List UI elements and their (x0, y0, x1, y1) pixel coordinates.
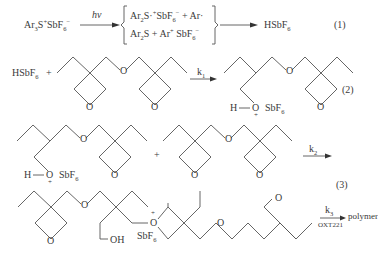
eq2-reactant: HSbF6 (12, 68, 39, 78)
atom-o: O (217, 218, 224, 228)
atom-o: O (120, 66, 127, 76)
eq3-oxonium-o: O (150, 218, 157, 228)
atom-o: O (286, 66, 293, 76)
eq3-plus: + (154, 150, 160, 160)
atom-o: O (111, 170, 118, 180)
eq2-h: H (230, 103, 237, 113)
atom-o: O (317, 102, 324, 112)
eq3-counterion: SbF6 (137, 231, 156, 241)
atom-o: O (225, 134, 232, 144)
eq1-number: (1) (334, 20, 346, 30)
eq3-o-charge: + (48, 179, 52, 186)
eq3-number: (3) (336, 180, 348, 190)
eq3-final-arrow-label: k3 (325, 205, 333, 215)
atom-o: O (86, 102, 93, 112)
eq2-plus: + (46, 68, 52, 78)
atom-o: O (275, 193, 282, 203)
eq2-o-charge: + (254, 112, 258, 119)
eq1-intermediate-line1: Ar2S·+SbF6− + Ar· (130, 11, 203, 21)
atom-o: O (191, 170, 198, 180)
eq3-hydroxyl: OH (110, 235, 124, 245)
atom-o: O (151, 102, 158, 112)
eq1-reactant: Ar3S+SbF6− (24, 20, 70, 30)
atom-o: O (80, 134, 87, 144)
eq2-number: (2) (342, 85, 354, 95)
eq3-h: H (24, 170, 31, 180)
eq3-oxonium-charge: + (151, 210, 155, 217)
eq3-counterion: SbF6 (59, 170, 78, 180)
eq1-product: HSbF6 (264, 20, 291, 30)
eq1-arrow-label: hν (92, 10, 101, 20)
eq2-arrow-label: k1 (197, 67, 205, 77)
eq2-counterion: SbF6 (265, 103, 284, 113)
eq3-arrow-label: k2 (309, 144, 317, 154)
atom-o: O (81, 200, 88, 210)
eq3-final-product: polymer (348, 212, 378, 221)
eq1-intermediate-line2: Ar2S + Ar+ SbF6− (130, 29, 199, 39)
atom-o: O (47, 236, 54, 246)
eq3-final-arrow-reagent: OXT221 (318, 222, 343, 229)
atom-o: O (256, 170, 263, 180)
